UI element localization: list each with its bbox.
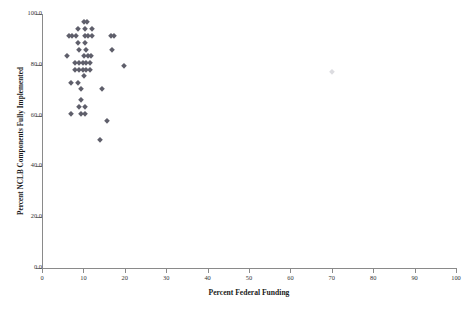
x-tick-label: 30 (154, 274, 178, 281)
data-point (85, 53, 91, 59)
x-tick-label: 20 (113, 274, 137, 281)
x-tick-mark (166, 268, 167, 273)
data-point (84, 19, 90, 25)
y-axis-title: Percent NCLB Components Fully Implemente… (14, 14, 28, 268)
x-tick-label: 10 (71, 274, 95, 281)
x-tick: 100 (456, 0, 457, 310)
data-point (89, 26, 95, 32)
x-tick-label: 100 (444, 274, 468, 281)
data-point (88, 53, 94, 59)
data-point (66, 33, 72, 39)
x-tick-label: 40 (196, 274, 220, 281)
data-point (85, 33, 91, 39)
x-tick-mark (83, 268, 84, 273)
x-tick: 10 (83, 0, 84, 310)
data-point (76, 67, 82, 73)
x-tick: 90 (415, 0, 416, 310)
x-tick: 60 (290, 0, 291, 310)
x-tick-label: 60 (278, 274, 302, 281)
x-tick: 80 (373, 0, 374, 310)
y-tick: 0.0 (0, 268, 42, 269)
x-tick: 70 (332, 0, 333, 310)
data-point (89, 33, 95, 39)
data-point (75, 80, 81, 86)
data-point (87, 60, 93, 66)
x-tick-mark (415, 268, 416, 273)
data-point (76, 47, 82, 53)
x-tick-mark (456, 268, 457, 273)
data-point (97, 137, 103, 143)
data-point (75, 40, 81, 46)
x-tick: 40 (208, 0, 209, 310)
plot-area (0, 0, 473, 310)
data-point (72, 60, 78, 66)
x-tick-label: 90 (403, 274, 427, 281)
data-point (68, 80, 74, 86)
x-tick-label: 70 (320, 274, 344, 281)
data-point (87, 67, 93, 73)
x-tick-mark (208, 268, 209, 273)
data-point (76, 104, 82, 110)
data-point (104, 118, 110, 124)
data-point (76, 60, 82, 66)
x-tick-mark (125, 268, 126, 273)
x-tick-mark (249, 268, 250, 273)
data-point (99, 86, 105, 92)
data-point (69, 33, 75, 39)
x-tick-label: 0 (30, 274, 54, 281)
scatter-chart: 0.020.040.060.080.0100.0 010203040506070… (0, 0, 473, 310)
x-tick: 50 (249, 0, 250, 310)
x-tick-label: 80 (361, 274, 385, 281)
x-tick-label: 50 (237, 274, 261, 281)
x-tick-mark (373, 268, 374, 273)
data-point (73, 33, 79, 39)
x-axis-title: Percent Federal Funding (42, 288, 456, 297)
x-tick-mark (290, 268, 291, 273)
data-point (108, 33, 114, 39)
x-tick: 0 (42, 0, 43, 310)
x-tick: 20 (125, 0, 126, 310)
x-tick-mark (332, 268, 333, 273)
data-point (111, 33, 117, 39)
data-point (64, 53, 70, 59)
data-point (72, 67, 78, 73)
data-point (75, 26, 81, 32)
x-tick-mark (42, 268, 43, 273)
data-point (109, 47, 115, 53)
x-tick: 30 (166, 0, 167, 310)
data-point (68, 111, 74, 117)
